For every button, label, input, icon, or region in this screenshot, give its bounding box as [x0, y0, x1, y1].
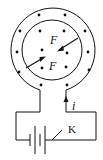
left-wire — [16, 112, 40, 140]
current-label: i — [72, 100, 75, 112]
field-dots — [16, 14, 91, 87]
force-label-lower: F — [49, 60, 56, 72]
switch-label: K — [68, 124, 76, 135]
force-arrow-lower-icon — [40, 57, 47, 63]
current-arrow-icon — [64, 96, 69, 102]
force-label-upper: F — [50, 34, 57, 46]
circuit-diagram — [0, 0, 103, 160]
force-arrow-upper-icon — [57, 46, 64, 52]
switch — [52, 130, 62, 140]
